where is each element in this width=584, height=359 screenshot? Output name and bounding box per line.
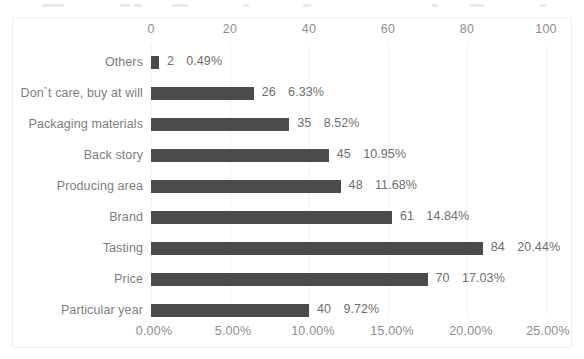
table-row: Producing area 48 11.68%	[0, 172, 584, 202]
top-axis-tick-5: 100	[535, 22, 556, 36]
value-label: 48	[349, 178, 363, 192]
value-label: 26	[262, 85, 276, 99]
bottom-axis-tick-3: 15.00%	[370, 324, 414, 338]
bar-back-story[interactable]	[151, 149, 329, 162]
value-label: 70	[436, 271, 450, 285]
top-axis-tick-0: 0	[147, 22, 154, 36]
percent-label: 17.03%	[462, 271, 505, 285]
category-label: Brand	[109, 210, 143, 224]
percent-label: 6.33%	[288, 85, 324, 99]
percent-label: 0.49%	[186, 54, 222, 68]
percent-label: 14.84%	[426, 209, 469, 223]
table-row: Others 2 0.49%	[0, 48, 584, 78]
category-label: Don`t care, buy at will	[21, 86, 143, 100]
value-label: 84	[491, 240, 505, 254]
table-row: Back story 45 10.95%	[0, 141, 584, 171]
bar-brand[interactable]	[151, 211, 392, 224]
bar-producing-area[interactable]	[151, 180, 341, 193]
percent-label: 20.44%	[517, 240, 560, 254]
table-row: Price 70 17.03%	[0, 265, 584, 295]
bar-dont-care-buy-at-will[interactable]	[151, 87, 254, 100]
category-label: Tasting	[103, 241, 143, 255]
bottom-axis-tick-4: 20.00%	[449, 324, 493, 338]
bottom-percent-axis: 0.00% 5.00% 10.00% 15.00% 20.00% 25.00%	[0, 324, 584, 342]
bar-tasting[interactable]	[151, 242, 483, 255]
table-row: Tasting 84 20.44%	[0, 234, 584, 264]
bottom-axis-tick-0: 0.00%	[136, 324, 172, 338]
value-label: 2	[167, 54, 174, 68]
value-label: 45	[337, 147, 351, 161]
percent-label: 9.72%	[343, 302, 379, 316]
category-label: Price	[114, 272, 143, 286]
bottom-axis-tick-1: 5.00%	[215, 324, 251, 338]
top-axis-tick-3: 60	[381, 22, 395, 36]
table-row: Don`t care, buy at will 26 6.33%	[0, 79, 584, 109]
top-axis-tick-4: 80	[460, 22, 474, 36]
value-label: 40	[317, 302, 331, 316]
category-label: Packaging materials	[29, 117, 143, 131]
category-label: Particular year	[61, 303, 143, 317]
top-axis-tick-1: 20	[223, 22, 237, 36]
bar-others[interactable]	[151, 56, 159, 69]
bar-particular-year[interactable]	[151, 304, 309, 317]
category-label: Others	[105, 55, 143, 69]
table-row: Brand 61 14.84%	[0, 203, 584, 233]
value-label: 35	[297, 116, 311, 130]
bottom-axis-tick-2: 10.00%	[291, 324, 335, 338]
category-label: Back story	[84, 148, 143, 162]
category-label: Producing area	[57, 179, 143, 193]
percent-label: 10.95%	[363, 147, 406, 161]
bar-packaging-materials[interactable]	[151, 118, 289, 131]
table-row: Packaging materials 35 8.52%	[0, 110, 584, 140]
bottom-axis-tick-5: 25.00%	[526, 324, 570, 338]
percent-label: 8.52%	[324, 116, 360, 130]
value-label: 61	[400, 209, 414, 223]
percent-label: 11.68%	[375, 178, 417, 192]
bar-price[interactable]	[151, 273, 428, 286]
table-row: Particular year 40 9.72%	[0, 296, 584, 326]
scan-artifact-strip	[0, 0, 584, 12]
top-count-axis: 0 20 40 60 80 100	[0, 22, 584, 40]
top-axis-tick-2: 40	[302, 22, 316, 36]
